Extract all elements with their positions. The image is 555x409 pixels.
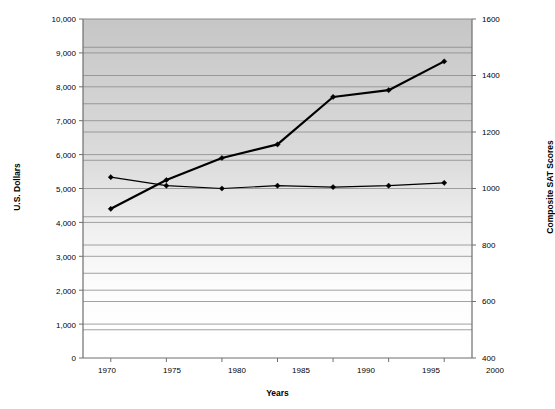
chart-container: U.S. Dollars Composite SAT Scores Years …: [0, 0, 554, 409]
plot-area: [0, 0, 554, 409]
